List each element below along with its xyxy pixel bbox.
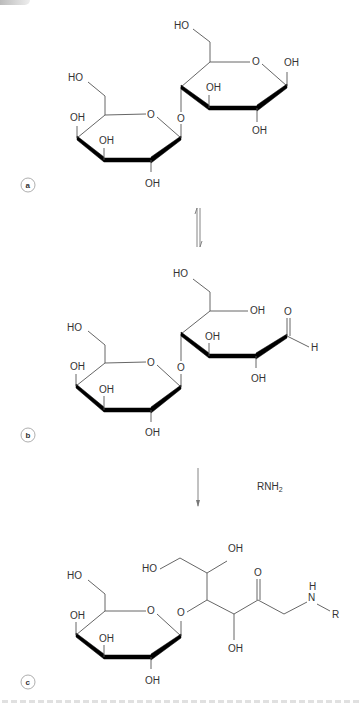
reaction-diagram: HO OH OH OH O O HO O OH OH OH a	[0, 0, 364, 705]
truncated-caption	[2, 700, 362, 703]
label-gal-c4-oh: OH	[70, 610, 85, 621]
label-gal-c6-ho: HO	[67, 322, 82, 333]
panel-c-amadori-product: HO OH OH OH O O HO OH OH O H N R c	[21, 543, 339, 689]
label-gal-c4-oh: OH	[70, 112, 85, 123]
label-gal-ring-o: O	[147, 357, 155, 368]
label-gal-c4-oh: OH	[70, 361, 85, 372]
label-glc-c6-ho: HO	[174, 20, 189, 31]
label-glc-c3-oh: OH	[206, 82, 221, 93]
label-glycosidic-o: O	[177, 362, 185, 373]
label-gal-c3-oh: OH	[99, 633, 114, 644]
label-glc-c2-oh: OH	[251, 373, 266, 384]
label-amine-r: R	[332, 609, 339, 620]
panel-b-lactose-open-chain: HO OH OH OH O O HO OH OH OH O H b	[21, 268, 318, 442]
label-glycosidic-o: O	[177, 607, 185, 618]
label-gal-c2-oh: OH	[145, 675, 160, 686]
label-gal-c3-oh: OH	[99, 135, 114, 146]
arrow-head-icon	[196, 500, 200, 507]
label-glc-c1-oh: OH	[284, 57, 299, 68]
label-aldehyde-o: O	[284, 306, 292, 317]
label-gal-c2-oh: OH	[145, 427, 160, 438]
label-glc-c3-oh: OH	[205, 331, 220, 342]
panel-label-c: c	[26, 678, 31, 687]
label-gal-c3-oh: OH	[99, 384, 114, 395]
label-chain-ho: HO	[142, 563, 157, 574]
label-glc-ring-o: O	[252, 56, 260, 67]
label-glc-c5-oh: OH	[250, 305, 265, 316]
label-chain-oh-bottom: OH	[228, 643, 243, 654]
label-amine-h: H	[309, 581, 316, 592]
equilibrium-arrow	[195, 208, 202, 247]
label-gal-ring-o: O	[147, 605, 155, 616]
label-glc-c6-ho: HO	[173, 268, 188, 279]
label-glycosidic-o: O	[177, 113, 185, 124]
label-gal-ring-o: O	[147, 109, 155, 120]
reagent-label: RNH2	[257, 481, 283, 493]
label-gal-c6-ho: HO	[68, 72, 83, 83]
label-gal-c6-ho: HO	[67, 570, 82, 581]
label-glc-c2-oh: OH	[252, 125, 267, 136]
label-chain-oh-top: OH	[228, 543, 243, 554]
label-gal-c2-oh: OH	[145, 178, 160, 189]
label-amine-n: N	[308, 592, 315, 603]
reaction-arrow: RNH2	[196, 468, 283, 507]
panel-a-lactose-cyclic: HO OH OH OH O O HO O OH OH OH a	[21, 20, 299, 192]
label-aldehyde-h: H	[311, 342, 318, 353]
panel-label-a: a	[26, 181, 31, 190]
panel-label-b: b	[26, 431, 31, 440]
label-ketone-o: O	[254, 567, 262, 578]
